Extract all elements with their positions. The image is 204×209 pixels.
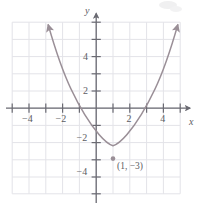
vertex-point-marker <box>111 156 116 161</box>
x-tick-label-neg2: −2 <box>56 114 67 124</box>
coordinate-plane <box>0 0 204 209</box>
x-tick-label-neg4: −4 <box>22 114 33 124</box>
x-tick-label-4: 4 <box>160 114 165 124</box>
y-tick-label-2: 2 <box>83 86 88 96</box>
y-tick-label-neg4: −4 <box>77 167 88 177</box>
x-tick-label-2: 2 <box>127 114 132 124</box>
y-tick-label-neg2: −2 <box>77 133 88 143</box>
x-axis-label: x <box>189 117 193 127</box>
scan-artifact <box>159 1 182 12</box>
graph-figure: −4 −2 2 4 4 2 −2 −4 x y (1, −3) <box>0 0 204 209</box>
y-axis-label: y <box>85 6 89 16</box>
x-axis <box>6 104 190 113</box>
vertex-point-label: (1, −3) <box>117 162 143 172</box>
y-tick-label-4: 4 <box>83 52 88 62</box>
